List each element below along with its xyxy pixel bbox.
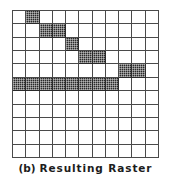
raster-cell-on [53,78,66,91]
raster-cell-off [146,64,159,77]
raster-cell-on [53,24,66,37]
raster-cell-off [132,38,145,51]
raster-cell-off [79,105,92,118]
raster-pixel-grid [12,10,159,158]
raster-cell-off [79,145,92,158]
raster-cell-off [106,11,119,24]
figure-caption-label: (b) [19,162,36,174]
raster-cell-off [93,131,106,144]
raster-cell-off [106,118,119,131]
raster-cell-off [132,78,145,91]
raster-cell-off [106,51,119,64]
raster-cell-off [40,51,53,64]
raster-cell-on [132,64,145,77]
raster-cell-off [106,131,119,144]
raster-figure: (b) Resulting Raster [0,0,171,187]
raster-cell-off [146,24,159,37]
raster-cell-off [132,24,145,37]
raster-cell-off [53,118,66,131]
raster-cell-off [93,24,106,37]
raster-cell-off [53,38,66,51]
raster-cell-off [93,118,106,131]
raster-cell-off [93,64,106,77]
raster-cell-off [13,91,26,104]
raster-cell-off [146,51,159,64]
raster-cell-off [146,91,159,104]
raster-cell-off [119,91,132,104]
raster-cell-on [93,78,106,91]
raster-cell-off [79,64,92,77]
raster-cell-off [53,51,66,64]
raster-cell-off [93,145,106,158]
raster-cell-off [40,11,53,24]
raster-cell-off [40,105,53,118]
raster-cell-off [146,11,159,24]
raster-cell-off [40,38,53,51]
raster-cell-on [79,51,92,64]
raster-cell-off [26,51,39,64]
raster-cell-off [79,38,92,51]
raster-cell-off [106,91,119,104]
raster-cell-on [26,11,39,24]
raster-cell-off [106,64,119,77]
raster-cell-on [66,78,79,91]
raster-cell-on [40,78,53,91]
raster-cell-off [132,91,145,104]
raster-cell-off [132,51,145,64]
raster-cell-off [79,118,92,131]
raster-cell-off [40,118,53,131]
raster-cell-off [132,105,145,118]
raster-cell-off [53,145,66,158]
raster-cell-off [40,91,53,104]
raster-cell-off [66,145,79,158]
raster-cell-off [40,145,53,158]
raster-cell-off [26,105,39,118]
raster-cell-off [13,131,26,144]
raster-cell-off [93,11,106,24]
raster-cell-off [132,118,145,131]
figure-caption: (b) Resulting Raster [0,162,171,174]
raster-cell-off [119,38,132,51]
raster-cell-off [26,24,39,37]
raster-cell-off [66,51,79,64]
raster-cell-off [119,11,132,24]
raster-cell-off [119,78,132,91]
raster-cell-off [40,64,53,77]
raster-cell-off [53,91,66,104]
raster-cell-off [53,105,66,118]
raster-cell-off [79,131,92,144]
raster-cell-off [66,64,79,77]
raster-cell-off [79,91,92,104]
raster-cell-off [53,11,66,24]
raster-cell-off [146,118,159,131]
raster-cell-on [40,24,53,37]
raster-cell-off [132,145,145,158]
raster-cell-off [53,64,66,77]
raster-cell-off [93,38,106,51]
raster-cell-off [13,145,26,158]
raster-cell-off [146,145,159,158]
raster-cell-off [93,105,106,118]
raster-cell-off [13,105,26,118]
raster-cell-off [26,64,39,77]
raster-cell-off [132,131,145,144]
raster-cell-off [66,105,79,118]
raster-cell-off [119,105,132,118]
raster-cell-off [79,11,92,24]
raster-cell-off [13,118,26,131]
raster-cell-off [146,78,159,91]
raster-cell-off [13,64,26,77]
raster-cell-off [66,118,79,131]
raster-cell-on [26,78,39,91]
raster-cell-off [66,24,79,37]
raster-cell-off [66,91,79,104]
raster-cell-off [106,145,119,158]
raster-cell-off [93,91,106,104]
raster-cell-off [26,145,39,158]
raster-cell-on [79,78,92,91]
raster-cell-off [13,38,26,51]
raster-cell-off [119,51,132,64]
raster-cell-off [119,24,132,37]
raster-cell-off [146,38,159,51]
raster-cell-off [119,145,132,158]
